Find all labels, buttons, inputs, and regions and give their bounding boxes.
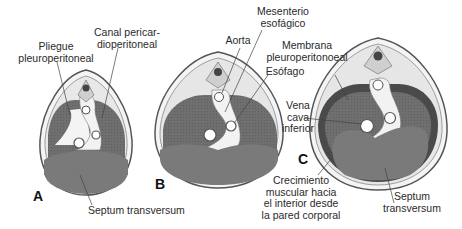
panel-letter-a: A [33, 188, 43, 204]
panel-letter-c: C [298, 151, 308, 167]
label-pliegue-pleuroperitoneal: Pliegue pleuroperitoneal [16, 41, 96, 64]
label-canal-pericardioperitoneal: Canal pericar- dioperitoneal [92, 27, 162, 50]
septum-top [44, 152, 128, 175]
label-mesenterio-esofagico: Mesenterio esofágico [248, 6, 318, 29]
label-membrana-pleuroperitonoeal: Membrana pleuroperitonoeal [254, 40, 360, 63]
esophagus-vessel [226, 121, 236, 131]
aorta-vessel [82, 106, 90, 114]
aorta-vessel [215, 93, 224, 102]
vena-cava-vessel [204, 129, 216, 141]
aorta-vessel [373, 80, 383, 90]
spinal-cord [374, 52, 383, 61]
label-septum-transversum-a: Septum transversum [88, 205, 185, 217]
spinal-cord [214, 68, 222, 76]
esophagus-vessel [385, 113, 396, 124]
vena-cava-vessel [74, 138, 84, 148]
label-septum-transversum-c: Septum transversum [382, 191, 442, 214]
label-crecimiento-muscular: Crecimiento muscular hacia el interior d… [256, 175, 346, 221]
esophagus-vessel [92, 131, 100, 139]
panel-a-cross-section [40, 48, 132, 205]
label-esofago: Esófago [262, 66, 308, 78]
spinal-cord [83, 85, 90, 92]
label-aorta: Aorta [220, 35, 256, 47]
panel-letter-b: B [155, 176, 165, 192]
label-vena-cava-inferior: Vena cava inferior [278, 100, 318, 135]
vena-cava-vessel [361, 120, 374, 133]
